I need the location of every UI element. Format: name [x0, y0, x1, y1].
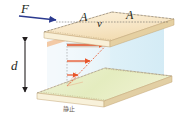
- area-label-right: A: [126, 9, 133, 21]
- stationary-plate-label: 静止: [63, 106, 75, 112]
- viscosity-couette-flow-figure: F A A v d 静止: [0, 0, 176, 122]
- force-arrow-group: [19, 16, 56, 20]
- gap-label: d: [11, 59, 18, 72]
- force-arrow: [19, 16, 56, 20]
- figure-canvas: [0, 0, 176, 122]
- area-label-left: A: [80, 11, 87, 23]
- force-label: F: [21, 2, 29, 15]
- velocity-label: v: [97, 18, 102, 29]
